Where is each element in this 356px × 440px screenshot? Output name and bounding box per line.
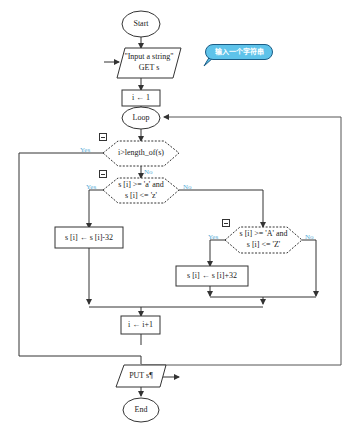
loop-node: Loop (122, 113, 160, 123)
input-callout: 输入一个字符串 (205, 44, 273, 60)
collapse-toggle-icon[interactable] (99, 133, 107, 141)
assign-upper-node: s [i] ← s [i]-32 (55, 233, 123, 243)
flowchart-canvas: Start "Input a string" GET s 输入一个字符串 i ←… (0, 0, 356, 440)
cond1-node: i>length_of(s) (103, 148, 179, 158)
collapse-toggle-icon[interactable] (222, 219, 230, 227)
cond1-yes-label: Yes (80, 146, 90, 154)
cond3-no-label: No (305, 233, 314, 241)
cond2-node-line2: s [i] <= 'z' (103, 191, 179, 201)
end-node: End (123, 405, 159, 415)
cond3-node-line2: s [i] <= 'Z' (225, 240, 302, 250)
cond2-no-label: No (183, 183, 192, 191)
cond1-no-label: No (144, 168, 153, 176)
start-node: Start (122, 19, 160, 29)
collapse-toggle-icon[interactable] (99, 170, 107, 178)
output-node: PUT s¶ (116, 371, 166, 381)
cond2-yes-label: Yes (86, 183, 96, 191)
cond3-node-line1: s [i] >= 'A' and (225, 229, 302, 239)
input-node-prompt: "Input a string" (117, 52, 181, 62)
input-node-get: GET s (117, 63, 181, 73)
assign-lower-node: s [i] ← s [i]+32 (176, 271, 248, 281)
increment-node: i ← i+1 (121, 320, 160, 330)
init-node: i ← 1 (122, 93, 160, 103)
cond3-yes-label: Yes (208, 233, 218, 241)
cond2-node-line1: s [i] >= 'a' and (103, 180, 179, 190)
